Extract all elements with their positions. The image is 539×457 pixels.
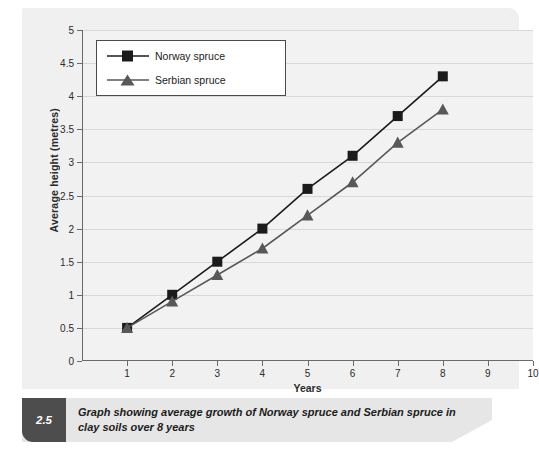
- x-tick: [488, 361, 489, 366]
- x-tick: [262, 361, 263, 366]
- y-tick: [77, 361, 82, 362]
- data-point-marker: [348, 151, 358, 161]
- x-tick-label: 1: [124, 368, 130, 379]
- y-tick-label: 1.5: [60, 256, 74, 267]
- y-tick-label: 4: [68, 91, 74, 102]
- x-tick-label: 9: [485, 368, 491, 379]
- y-tick-label: 2.5: [60, 190, 74, 201]
- x-tick: [353, 361, 354, 366]
- x-axis-title: Years: [82, 382, 533, 394]
- legend-label-norway-spruce: Norway spruce: [155, 50, 225, 62]
- y-axis-title: Average height (metres): [48, 108, 62, 232]
- x-tick: [217, 361, 218, 366]
- chart-legend: Norway spruce Serbian spruce: [96, 40, 286, 96]
- caption-text: Graph showing average growth of Norway s…: [78, 405, 476, 435]
- legend-item-serbian-spruce: Serbian spruce: [105, 72, 226, 88]
- y-tick-label: 3.5: [60, 124, 74, 135]
- legend-marker-triangle-icon: [105, 72, 151, 88]
- y-tick-label: 3: [68, 157, 74, 168]
- data-point-marker: [303, 184, 313, 194]
- legend-marker-square-icon: [105, 48, 151, 64]
- data-point-marker: [257, 224, 267, 234]
- legend-label-serbian-spruce: Serbian spruce: [155, 74, 226, 86]
- data-point-marker: [256, 242, 268, 253]
- plot-area: 00.511.522.533.544.55 12345678910 Norway…: [82, 30, 533, 361]
- x-tick: [172, 361, 173, 366]
- y-tick-label: 1: [68, 289, 74, 300]
- x-tick-label: 3: [215, 368, 221, 379]
- x-tick-label: 4: [260, 368, 266, 379]
- caption-number-badge: 2.5: [22, 398, 66, 442]
- x-tick: [443, 361, 444, 366]
- x-tick-label: 6: [350, 368, 356, 379]
- x-tick: [398, 361, 399, 366]
- legend-item-norway-spruce: Norway spruce: [105, 48, 225, 64]
- data-point-marker: [437, 103, 449, 114]
- data-point-marker: [393, 111, 403, 121]
- data-point-marker: [212, 257, 222, 267]
- x-tick: [533, 361, 534, 366]
- y-tick-label: 0.5: [60, 322, 74, 333]
- x-tick: [127, 361, 128, 366]
- y-tick-label: 0: [68, 356, 74, 367]
- x-tick-label: 2: [169, 368, 175, 379]
- x-tick-label: 8: [440, 368, 446, 379]
- x-tick: [308, 361, 309, 366]
- x-tick-label: 10: [527, 368, 538, 379]
- y-tick-label: 5: [68, 25, 74, 36]
- x-tick-label: 5: [305, 368, 311, 379]
- chart-panel: 00.511.522.533.544.55 12345678910 Norway…: [22, 8, 519, 389]
- data-point-marker: [302, 209, 314, 220]
- data-point-marker: [211, 269, 223, 280]
- y-tick-label: 4.5: [60, 58, 74, 69]
- y-tick-label: 2: [68, 223, 74, 234]
- x-tick-label: 7: [395, 368, 401, 379]
- data-point-marker: [392, 137, 404, 148]
- figure-caption: 2.5 Graph showing average growth of Norw…: [22, 398, 492, 442]
- data-point-marker: [438, 71, 448, 81]
